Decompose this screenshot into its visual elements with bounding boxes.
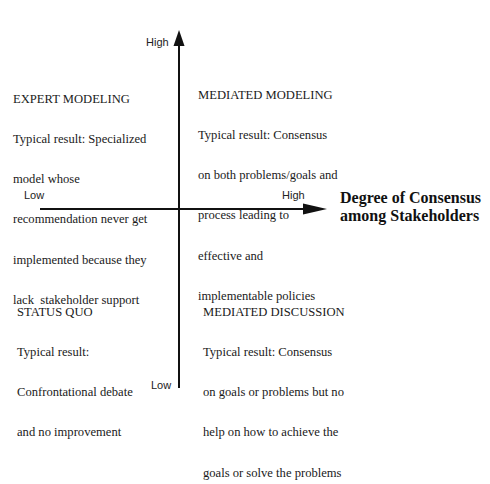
quadrant-text-line: effective and	[198, 250, 338, 263]
quadrant-title: EXPERT MODELING	[13, 93, 147, 106]
quadrant-text-line: help on how to achieve the	[203, 426, 345, 439]
quadrant-text-line: on goals or problems but no	[203, 386, 345, 399]
quadrant-text-line: and no improvement	[17, 426, 133, 439]
quadrant-title: MEDIATED MODELING	[198, 89, 338, 102]
quadrant-status-quo: STATUS QUO Typical result: Confrontation…	[17, 279, 133, 467]
quadrant-title: STATUS QUO	[17, 306, 133, 319]
x-axis-title-line1: Degree of Consensus	[340, 189, 481, 207]
quadrant-text-line: on both problems/goals and	[198, 169, 338, 182]
quadrant-text-line: goals or solve the problems	[203, 467, 345, 480]
quadrant-text-line: Confrontational debate	[17, 386, 133, 399]
quadrant-text-line: implemented because they	[13, 254, 147, 267]
arrow-up-icon	[174, 30, 185, 46]
quadrant-text-line: Typical result: Specialized	[13, 133, 147, 146]
quadrant-title: MEDIATED DISCUSSION	[203, 306, 345, 319]
x-axis-title-line2: among Stakeholders	[340, 207, 481, 225]
quadrant-text-line: Typical result:	[17, 346, 133, 359]
quadrant-mediated-discussion: MEDIATED DISCUSSION Typical result: Cons…	[203, 279, 345, 484]
quadrant-text-line: recommendation never get	[13, 213, 147, 226]
quadrant-text-line: Typical result: Consensus	[198, 129, 338, 142]
y-axis-high-label: High	[146, 36, 169, 48]
quadrant-text-line: process leading to	[198, 209, 338, 222]
x-axis-title: Degree of Consensus among Stakeholders	[340, 189, 481, 225]
quadrant-text-line: model whose	[13, 173, 147, 186]
quadrant-text-line: Typical result: Consensus	[203, 346, 345, 359]
y-axis-low-label: Low	[151, 379, 171, 391]
